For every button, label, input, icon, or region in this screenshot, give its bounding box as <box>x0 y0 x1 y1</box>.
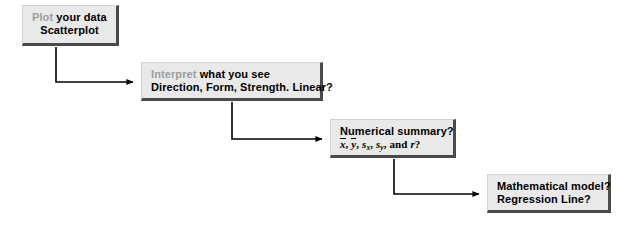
node-numerical-line1: Numerical summary? <box>340 125 444 138</box>
node-interpret-line1: Interpret what you see <box>151 68 311 81</box>
node-model-line1: Mathematical model? <box>497 180 599 193</box>
flowchart-canvas: Plot your data Scatterplot Interpret wha… <box>0 0 623 230</box>
node-numerical-line2: x, y, sx, sy, and r? <box>340 138 444 152</box>
connector-interpret-to-numerical <box>232 102 322 139</box>
node-interpret[interactable]: Interpret what you see Direction, Form, … <box>141 62 323 101</box>
math-question-mark: ? <box>415 138 421 150</box>
node-plot-line2: Scatterplot <box>32 24 107 37</box>
node-plot-line1-rest: your data <box>53 11 107 23</box>
node-plot[interactable]: Plot your data Scatterplot <box>22 5 119 46</box>
node-mathematical-model[interactable]: Mathematical model? Regression Line? <box>487 174 611 213</box>
node-interpret-lead: Interpret <box>151 68 197 80</box>
node-plot-lead: Plot <box>32 11 53 23</box>
node-model-line2: Regression Line? <box>497 193 599 206</box>
math-sep-4: , and <box>384 138 411 150</box>
node-interpret-line2: Direction, Form, Strength. Linear? <box>151 81 311 94</box>
node-interpret-line1-rest: what you see <box>197 68 270 80</box>
connector-numerical-to-model <box>394 159 479 194</box>
connector-plot-to-interpret <box>56 47 133 82</box>
node-plot-line1: Plot your data <box>32 11 107 24</box>
node-numerical-summary[interactable]: Numerical summary? x, y, sx, sy, and r? <box>330 119 456 158</box>
